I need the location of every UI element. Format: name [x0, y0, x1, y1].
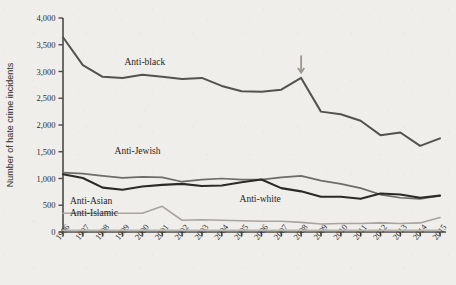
series-line-anti-asian [63, 206, 440, 224]
y-axis-tick-label: 3,000 [36, 67, 55, 77]
y-axis-tick-label: 1,000 [36, 174, 55, 184]
series-labels: Anti-blackAnti-JewishAnti-whiteAnti-Asia… [70, 57, 281, 218]
series-line-anti-black [63, 37, 440, 146]
y-axis-title: Number of hate crime incidents [5, 62, 15, 187]
y-axis-tick-label: 2,500 [36, 93, 55, 103]
y-axis-tick-label: 2,000 [36, 120, 55, 130]
y-axis: 05001,0001,5002,0002,5003,0003,5004,000 [36, 13, 63, 237]
series-label-anti-jewish: Anti-Jewish [115, 146, 161, 156]
x-axis: 1996199719981999200020012002200320042005… [53, 222, 448, 242]
annotation-arrow-2008 [298, 55, 304, 72]
hate-crime-line-chart: 05001,0001,5002,0002,5003,0003,5004,0001… [0, 0, 456, 285]
chart-canvas: 05001,0001,5002,0002,5003,0003,5004,0001… [0, 0, 456, 285]
y-axis-tick-label: 500 [43, 200, 56, 210]
y-axis-tick-label: 1,500 [36, 147, 55, 157]
y-axis-tick-label: 3,500 [36, 40, 55, 50]
series-label-anti-islamic: Anti-Islamic [70, 208, 118, 218]
series-label-anti-black: Anti-black [125, 57, 166, 67]
series-label-anti-asian: Anti-Asian [70, 196, 112, 206]
y-axis-tick-label: 4,000 [36, 13, 55, 23]
series-label-anti-white: Anti-white [240, 194, 281, 204]
